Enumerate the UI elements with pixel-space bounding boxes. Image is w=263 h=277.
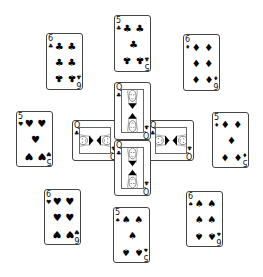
clubs-pip-icon: ♣ [67, 58, 76, 68]
suit-icon: ♣ [143, 124, 149, 130]
spades-pip-icon: ♠ [195, 231, 204, 241]
playing-card-6-of-hearts[interactable]: 6♥6♥♥♥♥♥♥♥ [44, 189, 81, 245]
card-index-top: 6♣ [48, 35, 53, 49]
card-index-bottom: Q♣ [186, 145, 192, 159]
card-index-top: 6♠ [188, 193, 193, 207]
hearts-pip-icon: ♥ [37, 119, 46, 129]
suit-icon: ♣ [116, 92, 122, 98]
queen-portrait [121, 147, 144, 189]
playing-card-5-of-diamonds[interactable]: 5♦5♦♦♦♦♦♦ [212, 112, 249, 168]
suit-icon: ♣ [74, 130, 80, 136]
card-index-bottom: Q♣ [143, 124, 149, 138]
queen-card-q-left[interactable]: Q♣Q♣ [72, 120, 118, 161]
playing-card-5-of-clubs[interactable]: 5♣5♣♣♣♣♣♣ [114, 15, 151, 72]
spades-pip-icon: ♠ [122, 247, 131, 257]
diamonds-pip-icon: ♦ [233, 152, 242, 162]
queen-portrait [79, 127, 111, 154]
queen-card-q-top[interactable]: Q♣Q♣ [114, 82, 151, 140]
suit-icon: ♣ [48, 43, 53, 49]
queen-portrait [121, 89, 144, 133]
hearts-pip-icon: ♥ [25, 119, 34, 129]
hearts-pip-icon: ♥ [37, 151, 46, 161]
diamonds-pip-icon: ♦ [204, 74, 213, 84]
card-index-top: Q♣ [74, 122, 80, 136]
suit-icon: ♦ [214, 122, 219, 128]
card-index-top: Q♣ [116, 142, 122, 156]
suit-icon: ♠ [188, 201, 193, 207]
card-index-top: 5♥ [18, 113, 23, 127]
queen-card-q-right[interactable]: Q♣Q♣ [148, 120, 194, 161]
diamonds-pip-icon: ♦ [221, 120, 230, 130]
diamonds-pip-icon: ♦ [192, 43, 201, 53]
spades-pip-icon: ♠ [134, 247, 143, 257]
spades-pip-icon: ♠ [207, 215, 216, 225]
spades-pip-icon: ♠ [195, 199, 204, 209]
rank-label: Q [186, 151, 192, 159]
diamonds-pip-icon: ♦ [192, 74, 201, 84]
suit-icon: ♥ [46, 199, 51, 205]
diamonds-pip-icon: ♦ [233, 120, 242, 130]
hearts-pip-icon: ♥ [53, 213, 62, 223]
spades-pip-icon: ♠ [128, 231, 137, 241]
suit-icon: ♣ [116, 25, 121, 31]
spades-pip-icon: ♠ [195, 215, 204, 225]
hearts-pip-icon: ♥ [25, 151, 34, 161]
card-index-top: 5♠ [115, 209, 120, 223]
spades-pip-icon: ♠ [122, 215, 131, 225]
suit-icon: ♥ [18, 121, 23, 127]
card-index-top: 6♥ [46, 191, 51, 205]
hearts-pip-icon: ♥ [53, 229, 62, 239]
clubs-pip-icon: ♣ [55, 73, 64, 83]
card-index-top: Q♣ [116, 84, 122, 98]
suit-icon: ♦ [185, 44, 190, 50]
suit-icon: ♣ [116, 150, 122, 156]
clubs-pip-icon: ♣ [55, 58, 64, 68]
clubs-pip-icon: ♣ [123, 24, 132, 34]
playing-card-5-of-hearts[interactable]: 5♥5♥♥♥♥♥♥ [16, 111, 53, 167]
playing-card-5-of-spades[interactable]: 5♠5♠♠♠♠♠♠ [113, 207, 150, 263]
hearts-pip-icon: ♥ [53, 197, 62, 207]
clubs-pip-icon: ♣ [67, 73, 76, 83]
spades-pip-icon: ♠ [207, 199, 216, 209]
clubs-pip-icon: ♣ [123, 55, 132, 65]
card-index-top: 5♣ [116, 17, 121, 31]
card-index-bottom: Q♣ [143, 180, 149, 194]
diamonds-pip-icon: ♦ [192, 59, 201, 69]
spades-pip-icon: ♠ [134, 215, 143, 225]
playing-card-6-of-diamonds[interactable]: 6♦6♦♦♦♦♦♦♦ [183, 34, 220, 91]
playing-card-6-of-spades[interactable]: 6♠6♠♠♠♠♠♠♠ [186, 191, 223, 247]
clubs-pip-icon: ♣ [135, 24, 144, 34]
suit-icon: ♣ [143, 180, 149, 186]
hearts-pip-icon: ♥ [31, 135, 40, 145]
queen-card-q-bottom[interactable]: Q♣Q♣ [114, 140, 151, 196]
clubs-pip-icon: ♣ [135, 55, 144, 65]
suit-icon: ♣ [186, 145, 192, 151]
hearts-pip-icon: ♥ [65, 197, 74, 207]
hearts-pip-icon: ♥ [65, 213, 74, 223]
diamonds-pip-icon: ♦ [204, 43, 213, 53]
spades-pip-icon: ♠ [207, 231, 216, 241]
hearts-pip-icon: ♥ [65, 229, 74, 239]
card-index-top: 6♦ [185, 36, 190, 50]
playing-card-6-of-clubs[interactable]: 6♣6♣♣♣♣♣♣♣ [46, 33, 83, 90]
diamonds-pip-icon: ♦ [204, 59, 213, 69]
diamonds-pip-icon: ♦ [221, 152, 230, 162]
diamonds-pip-icon: ♦ [227, 136, 236, 146]
clubs-pip-icon: ♣ [129, 40, 138, 50]
clubs-pip-icon: ♣ [67, 42, 76, 52]
queen-portrait [155, 127, 187, 154]
clubs-pip-icon: ♣ [55, 42, 64, 52]
suit-icon: ♠ [115, 217, 120, 223]
rank-label: Q [143, 130, 149, 138]
card-index-top: 5♦ [214, 114, 219, 128]
rank-label: Q [143, 186, 149, 194]
